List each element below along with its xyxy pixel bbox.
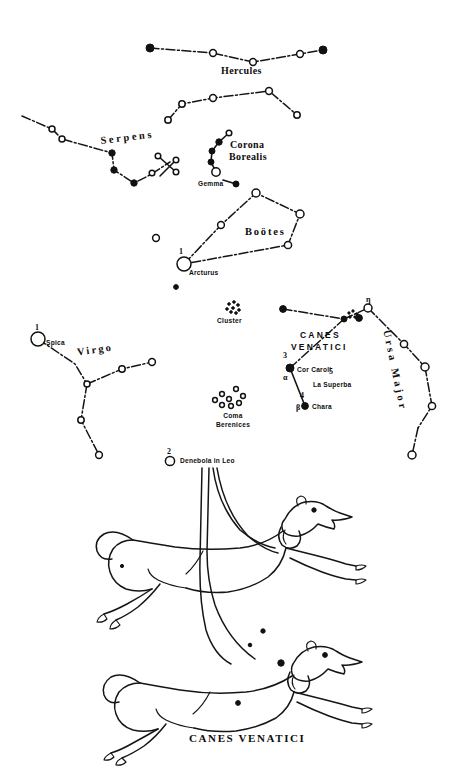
canes-venatici-sky-label-line2: VENATICI [291,343,348,352]
cor-caroli-magnitude: 3 [283,352,287,360]
bootes-label: Boötes [245,227,286,238]
la-superba-star-label: La Superba [313,382,351,389]
leash-cords [200,468,278,664]
constellation-serpens [22,116,179,186]
spica-star-label: Spica [46,340,65,347]
chara-magnitude: 4 [300,392,304,400]
constellation-canes-venatici [280,306,368,410]
coma-berenices-label-line1: Coma [210,413,256,420]
arcturus-star-label: Arcturus [189,270,218,277]
plate-caption: CANES VENATICI [189,733,305,744]
chara-greek-letter: β [296,404,300,412]
star-chart-figure: .cline { stroke:#141414; stroke-width:1.… [0,0,453,770]
arcturus-magnitude: 1 [179,248,183,256]
upper-dog-asterion [96,496,366,629]
cluster-label: Cluster [217,318,242,325]
denebola-star-label: Denebola in Leo [180,458,235,465]
constellation-hercules [146,44,327,65]
constellation-coma-berenices [213,387,246,409]
cor-caroli-star-label: Cor Caroli [297,367,331,374]
canes-venatici-sky-label-line1: CANES [300,331,341,340]
hercules-label: Hercules [221,66,262,76]
cor-caroli-greek-letter: α [283,374,287,382]
spica-magnitude: 1 [35,324,39,332]
corona-borealis-label-line2: Borealis [229,152,267,162]
coma-berenices-label-line2: Berenices [206,422,260,429]
lower-dog-chara [103,629,372,765]
deep-sky-cluster [226,301,241,315]
constellation-upper-arc [165,88,300,124]
chara-star-label: Chara [312,404,332,411]
corona-borealis-label-line1: Corona [230,140,264,150]
gemma-star-label: Gemma [198,181,223,188]
star-denebola [165,456,174,465]
constellation-lines-layer: .cline { stroke:#141414; stroke-width:1.… [0,0,453,770]
la-superba-magnitude: 5 [329,368,333,376]
field-star-upsilon [153,235,179,290]
denebola-magnitude: 2 [167,448,171,456]
eta-ursae-majoris-greek-letter: η [366,296,371,304]
